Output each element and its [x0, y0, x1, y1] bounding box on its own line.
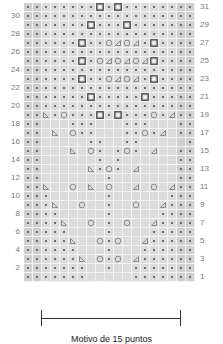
chart-cell-knit-blank — [87, 273, 96, 282]
chart-cell-knit-blank — [123, 156, 132, 165]
row-label-right: 3 — [200, 254, 214, 263]
chart-cell-purl-dot — [24, 183, 33, 192]
chart-cell-purl-dot — [42, 210, 51, 219]
chart-cell-purl-dot — [87, 3, 96, 12]
chart-cell-yarn-over-circle — [123, 39, 132, 48]
chart-row — [24, 12, 195, 21]
chart-cell-knit-blank — [123, 264, 132, 273]
chart-row — [24, 57, 195, 66]
row-label-left: 28 — [6, 29, 20, 38]
chart-cell-purl-dot — [78, 3, 87, 12]
chart-cell-bobble-square — [150, 57, 159, 66]
chart-cell-purl-dot — [42, 219, 51, 228]
chart-cell-knit-blank — [114, 273, 123, 282]
chart-cell-knit-blank — [150, 174, 159, 183]
chart-cell-purl-dot — [87, 75, 96, 84]
chart-cell-purl-dot — [24, 156, 33, 165]
chart-cell-knit-blank — [78, 237, 87, 246]
chart-cell-knit-blank — [159, 147, 168, 156]
chart-cell-knit-blank — [150, 165, 159, 174]
knitting-chart-grid — [24, 3, 195, 282]
chart-cell-purl-dot — [51, 21, 60, 30]
chart-cell-knit-blank — [114, 264, 123, 273]
chart-cell-knit-blank — [51, 120, 60, 129]
chart-cell-purl-dot — [177, 246, 186, 255]
chart-cell-purl-dot — [186, 84, 195, 93]
chart-cell-purl-dot — [69, 30, 78, 39]
chart-cell-purl-dot — [51, 48, 60, 57]
chart-cell-yarn-over-circle — [87, 147, 96, 156]
chart-cell-purl-dot — [123, 3, 132, 12]
chart-cell-purl-dot — [132, 264, 141, 273]
chart-cell-purl-dot — [24, 66, 33, 75]
chart-cell-purl-dot — [123, 66, 132, 75]
chart-cell-purl-dot — [96, 39, 105, 48]
chart-cell-purl-dot — [168, 201, 177, 210]
chart-cell-purl-dot — [159, 39, 168, 48]
chart-cell-purl-dot — [186, 39, 195, 48]
chart-cell-purl-dot — [168, 246, 177, 255]
chart-cell-purl-dot — [51, 3, 60, 12]
chart-cell-purl-dot — [177, 165, 186, 174]
chart-cell-purl-dot — [114, 12, 123, 21]
chart-cell-purl-dot — [24, 255, 33, 264]
chart-cell-purl-dot — [177, 201, 186, 210]
chart-cell-purl-dot — [132, 84, 141, 93]
chart-cell-purl-dot — [33, 3, 42, 12]
chart-cell-purl-dot — [186, 156, 195, 165]
chart-cell-purl-dot — [159, 111, 168, 120]
chart-cell-knit-blank — [96, 129, 105, 138]
chart-cell-purl-dot — [132, 48, 141, 57]
chart-cell-ssk-left-triangle — [69, 237, 78, 246]
chart-cell-knit-blank — [51, 192, 60, 201]
chart-cell-purl-dot — [33, 228, 42, 237]
chart-cell-purl-dot — [69, 75, 78, 84]
chart-row — [24, 228, 195, 237]
chart-cell-yarn-over-circle — [114, 57, 123, 66]
chart-cell-knit-blank — [78, 147, 87, 156]
chart-row — [24, 210, 195, 219]
chart-cell-knit-blank — [69, 165, 78, 174]
repeat-caption: Motivo de 15 puntos — [0, 334, 223, 344]
chart-cell-purl-dot — [186, 138, 195, 147]
chart-cell-yarn-over-circle — [96, 255, 105, 264]
chart-cell-knit-blank — [132, 210, 141, 219]
chart-cell-purl-dot — [132, 120, 141, 129]
chart-cell-purl-dot — [186, 3, 195, 12]
chart-cell-purl-dot — [177, 219, 186, 228]
chart-cell-purl-dot — [177, 75, 186, 84]
chart-cell-knit-blank — [150, 138, 159, 147]
chart-cell-knit-blank — [132, 192, 141, 201]
chart-cell-knit-blank — [96, 264, 105, 273]
chart-cell-purl-dot — [150, 21, 159, 30]
chart-cell-purl-dot — [141, 66, 150, 75]
chart-cell-purl-dot — [186, 192, 195, 201]
chart-cell-purl-dot — [51, 237, 60, 246]
chart-cell-purl-dot — [132, 111, 141, 120]
chart-cell-purl-dot — [141, 111, 150, 120]
row-label-right: 29 — [200, 20, 214, 29]
chart-cell-purl-dot — [33, 219, 42, 228]
chart-cell-knit-blank — [141, 138, 150, 147]
chart-cell-purl-dot — [24, 246, 33, 255]
chart-cell-purl-dot — [123, 48, 132, 57]
chart-cell-knit-blank — [159, 138, 168, 147]
chart-cell-purl-dot — [123, 84, 132, 93]
chart-cell-purl-dot — [168, 48, 177, 57]
chart-cell-purl-dot — [177, 129, 186, 138]
chart-cell-purl-dot — [177, 120, 186, 129]
chart-cell-knit-blank — [114, 129, 123, 138]
chart-cell-purl-dot — [177, 48, 186, 57]
chart-cell-knit-blank — [141, 156, 150, 165]
chart-cell-knit-blank — [51, 165, 60, 174]
row-label-right: 17 — [200, 128, 214, 137]
chart-cell-k2tog-right-triangle — [132, 183, 141, 192]
chart-cell-purl-dot — [159, 246, 168, 255]
chart-cell-knit-blank — [42, 129, 51, 138]
chart-cell-yarn-over-circle — [105, 39, 114, 48]
chart-cell-purl-dot — [96, 75, 105, 84]
chart-cell-purl-dot — [105, 66, 114, 75]
chart-cell-purl-dot — [87, 120, 96, 129]
chart-cell-purl-dot — [96, 156, 105, 165]
chart-cell-purl-dot — [177, 264, 186, 273]
